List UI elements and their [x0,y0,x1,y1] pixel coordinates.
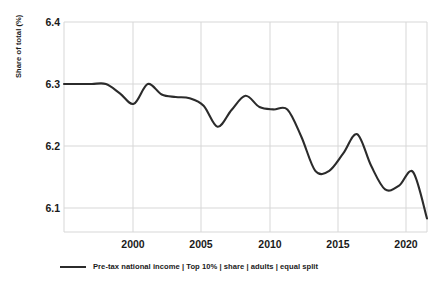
legend-item-label: Pre-tax national income | Top 10% | shar… [93,262,318,271]
x-tick-label: 2000 [121,238,144,250]
grid-lines [64,22,427,232]
chart-legend: Pre-tax national income | Top 10% | shar… [60,262,318,271]
plot-area [0,0,445,287]
line-chart: Share of total (%) 6.4 6.3 6.2 6.1 2000 … [0,0,445,287]
x-tick-label: 2020 [394,238,417,250]
x-tick-label: 2005 [189,238,212,250]
series-line-pre-tax-national-income-top-10pct [64,83,427,218]
x-tick-label: 2015 [326,238,349,250]
x-tick-label: 2010 [258,238,281,250]
legend-line-swatch [60,266,86,268]
